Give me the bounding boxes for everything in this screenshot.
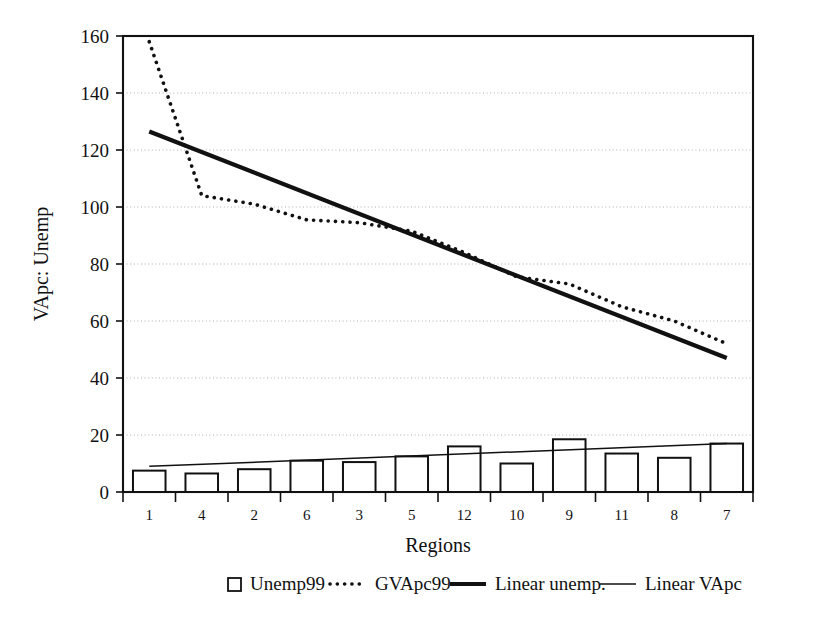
legend-label: GVApc99 [375, 573, 451, 594]
y-tick-label: 160 [81, 26, 110, 47]
y-axis-title: VApc: Unemp [30, 207, 53, 322]
bar [290, 461, 323, 492]
bar [133, 471, 166, 492]
legend-label: Linear VApc [645, 573, 742, 594]
x-tick-label: 3 [356, 507, 364, 523]
bar [710, 444, 743, 492]
x-tick-label: 9 [566, 507, 574, 523]
x-tick-label: 11 [615, 507, 629, 523]
x-tick-label: 4 [198, 507, 206, 523]
bar [605, 454, 638, 492]
open-square-marker-icon [228, 578, 241, 591]
y-tick-label: 60 [90, 311, 109, 332]
bar [553, 439, 586, 492]
x-tick-label: 12 [457, 507, 472, 523]
x-tick-label: 10 [509, 507, 524, 523]
y-tick-label: 80 [90, 254, 109, 275]
bar [395, 456, 428, 492]
y-tick-label: 120 [81, 140, 110, 161]
bar [658, 458, 691, 492]
legend-label: Unemp99 [250, 573, 325, 594]
legend-label: Linear unemp. [495, 573, 606, 594]
x-tick-label: 1 [146, 507, 154, 523]
bar [343, 462, 376, 492]
x-tick-label: 2 [251, 507, 259, 523]
y-tick-label: 20 [90, 425, 109, 446]
x-axis-title: Regions [405, 534, 471, 557]
y-tick-label: 40 [90, 368, 109, 389]
chart-figure: 020406080100120140160 142635121091187 VA… [0, 0, 824, 627]
bar [238, 469, 271, 492]
y-tick-label: 100 [81, 197, 110, 218]
chart-canvas: 020406080100120140160 142635121091187 VA… [0, 0, 824, 627]
y-tick-label: 0 [100, 482, 110, 503]
x-tick-label: 5 [408, 507, 416, 523]
y-tick-label: 140 [81, 83, 110, 104]
bar [185, 473, 218, 492]
x-tick-label: 6 [303, 507, 311, 523]
x-tick-label: 7 [723, 507, 731, 523]
x-tick-label: 8 [671, 507, 679, 523]
bar [500, 464, 533, 493]
